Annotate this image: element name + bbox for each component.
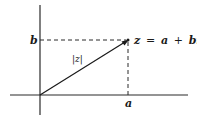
real-tick-label: a [125, 97, 132, 110]
point-z [127, 39, 130, 42]
equation-equals: = [146, 34, 155, 47]
complex-plane-diagram: b a |z| z = a + bi [0, 0, 197, 117]
equation-z: z [133, 34, 141, 47]
equation-bi: bi [189, 34, 197, 47]
equation-a: a [161, 34, 168, 47]
modulus-label: |z| [72, 54, 83, 65]
modulus-vector [40, 42, 125, 95]
imaginary-tick-label: b [30, 34, 38, 47]
point-equation-label: z = a + bi [133, 34, 197, 47]
equation-plus: + [174, 34, 183, 47]
